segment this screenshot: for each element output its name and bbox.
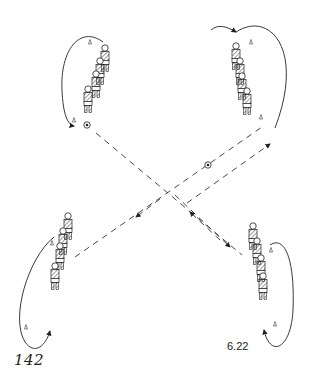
pass-lines: [75, 127, 270, 257]
group-bottom-left: [25, 213, 73, 329]
page-number: 142: [14, 351, 44, 369]
group-bottom-right: [249, 223, 277, 326]
rotation-loops: [20, 26, 294, 348]
group-top-left: [73, 40, 110, 129]
ball: [205, 162, 211, 168]
group-top-right: [232, 40, 263, 120]
drill-diagram: [0, 0, 316, 377]
figure-label: 6.22: [227, 340, 248, 352]
